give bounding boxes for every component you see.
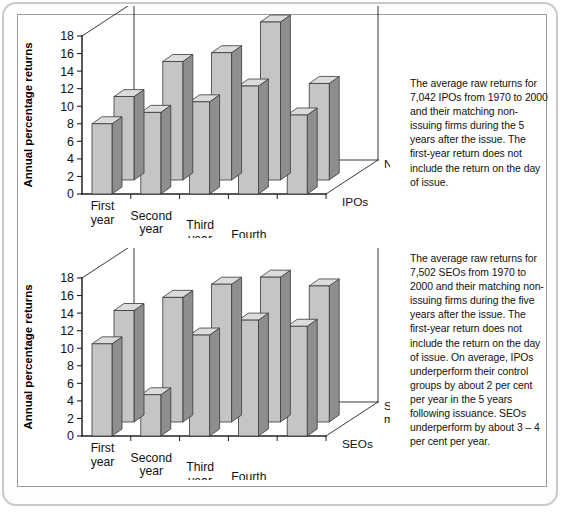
bar-ipo-front-1 — [141, 105, 171, 194]
bar-seo-front-2 — [190, 328, 220, 436]
depth-axis-label-front: IPOs — [342, 195, 368, 209]
y-axis-tick-label: 18 — [60, 29, 74, 43]
x-axis-category-label: Fourth — [231, 470, 266, 480]
bar-seo-front-3 — [238, 313, 268, 436]
bar-ipo-front-4 — [287, 108, 317, 194]
x-axis-category-label: year — [91, 455, 115, 469]
y-axis-tick-label: 14 — [60, 65, 74, 79]
y-axis-tick-label: 0 — [67, 187, 74, 201]
y-axis-tick-label: 8 — [67, 359, 74, 373]
y-axis-title: Annual percentage returns — [22, 285, 34, 430]
ipo-returns-3d-bar-chart: 024681012141618Annual percentage returns… — [10, 6, 390, 238]
x-axis-category-label: Fifth — [286, 237, 310, 238]
y-axis-tick-label: 2 — [67, 412, 74, 426]
x-axis-category-label: year — [139, 464, 163, 478]
depth-axis-label-front: SEOs — [342, 437, 373, 451]
y-axis-tick-label: 12 — [60, 82, 74, 96]
bar-ipo-front-0 — [92, 117, 122, 194]
bar-ipo-front-2 — [190, 95, 220, 194]
bar-seo-front-4 — [287, 319, 317, 436]
x-axis-category-label: year — [91, 213, 115, 227]
y-axis-tick-label: 18 — [60, 271, 74, 285]
x-axis-category-label: Fifth — [286, 479, 310, 480]
bar-seo-front-0 — [92, 337, 122, 436]
depth-axis-label-back: Style — [384, 399, 390, 413]
x-axis-category-label: year — [188, 232, 212, 238]
y-axis-tick-label: 16 — [60, 47, 74, 61]
x-axis-category-label: Third — [186, 460, 214, 474]
x-axis-category-label: year — [188, 474, 212, 480]
x-axis-category-label: Second — [131, 209, 172, 223]
x-axis-category-label: First — [91, 441, 115, 455]
bar-seo-front-1 — [141, 388, 171, 436]
y-axis-tick-label: 0 — [67, 429, 74, 443]
bar-ipo-front-3 — [238, 79, 268, 194]
figure-page: 024681012141618Annual percentage returns… — [0, 0, 566, 513]
x-axis-category-label: First — [91, 199, 115, 213]
y-axis-tick-label: 8 — [67, 117, 74, 131]
y-axis-tick-label: 14 — [60, 307, 74, 321]
x-axis-category-label: Second — [131, 451, 172, 465]
y-axis-tick-label: 12 — [60, 324, 74, 338]
y-axis-tick-label: 10 — [60, 342, 74, 356]
chart-panel-ipos: 024681012141618Annual percentage returns… — [10, 6, 390, 238]
x-axis-category-label: Third — [186, 218, 214, 232]
depth-axis-label-back: Non-issuers — [384, 157, 390, 171]
caption-seos: The average raw returns for 7,502 SEOs f… — [410, 252, 548, 449]
y-axis-title: Annual percentage returns — [22, 43, 34, 188]
y-axis-tick-label: 10 — [60, 100, 74, 114]
chart-panel-seos: 024681012141618Annual percentage returns… — [10, 248, 390, 480]
x-axis-category-label: Fourth — [231, 228, 266, 238]
y-axis-tick-label: 16 — [60, 289, 74, 303]
y-axis-tick-label: 6 — [67, 377, 74, 391]
x-axis-category-label: year — [139, 222, 163, 236]
depth-axis-label-back: matched — [384, 412, 390, 426]
y-axis-tick-label: 6 — [67, 135, 74, 149]
caption-ipos: The average raw returns for 7,042 IPOs f… — [410, 77, 548, 190]
y-axis-tick-label: 2 — [67, 170, 74, 184]
y-axis-tick-label: 4 — [67, 152, 74, 166]
seo-returns-3d-bar-chart: 024681012141618Annual percentage returns… — [10, 248, 390, 480]
y-axis-tick-label: 4 — [67, 394, 74, 408]
